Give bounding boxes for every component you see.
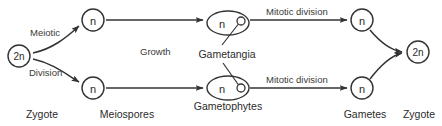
edge-label-growth: Growth bbox=[140, 46, 171, 57]
node-gametophyte-bottom: n bbox=[207, 63, 249, 100]
node-gamete-bottom: n bbox=[351, 77, 373, 99]
node-gametophyte-top: n bbox=[207, 11, 249, 45]
node-zygote-right: 2n bbox=[407, 41, 429, 63]
meiospore-bottom-label: n bbox=[90, 83, 96, 95]
edge-label-division: Division bbox=[29, 67, 62, 78]
stage-label-gametophytes: Gametophytes bbox=[194, 100, 262, 112]
zygote-left-label: 2n bbox=[13, 51, 24, 62]
edge-fertilization-upper bbox=[370, 30, 402, 52]
zygote-right-label: 2n bbox=[412, 47, 423, 58]
life-cycle-diagram: 2n n n n n n bbox=[0, 0, 442, 126]
stage-label-zygote-right: Zygote bbox=[403, 108, 435, 120]
node-zygote-left: 2n bbox=[8, 45, 30, 67]
diagram-canvas: 2n n n n n n bbox=[0, 0, 442, 126]
edge-label-mitotic-division-top: Mitotic division bbox=[266, 6, 328, 17]
stage-label-gametes: Gametes bbox=[344, 108, 387, 120]
gametangium-bottom-circle bbox=[237, 84, 245, 92]
meiospore-top-label: n bbox=[90, 15, 96, 27]
node-meiospore-bottom: n bbox=[82, 77, 104, 99]
stage-label-meiospores: Meiospores bbox=[100, 108, 154, 120]
gamete-bottom-label: n bbox=[359, 83, 365, 95]
edge-label-mitotic-division-bottom: Mitotic division bbox=[266, 74, 328, 85]
edge-fertilization-lower bbox=[370, 53, 402, 79]
structure-label-gametangia: Gametangia bbox=[198, 48, 255, 60]
edge-label-meiotic: Meiotic bbox=[30, 27, 60, 38]
node-meiospore-top: n bbox=[82, 9, 104, 31]
node-gamete-top: n bbox=[351, 9, 373, 31]
gametangium-top-circle bbox=[237, 17, 245, 25]
gamete-top-label: n bbox=[359, 15, 365, 27]
gametophyte-top-label: n bbox=[219, 18, 225, 30]
stage-label-zygote-left: Zygote bbox=[26, 108, 58, 120]
gametophyte-bottom-label: n bbox=[219, 83, 225, 95]
